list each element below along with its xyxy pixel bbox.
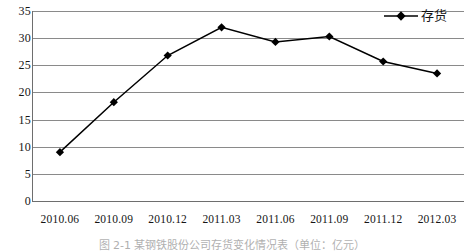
y-tick-label-0: 0 <box>3 195 31 207</box>
data-point-2011.03 <box>217 23 225 31</box>
y-tick-label-15: 15 <box>3 114 31 126</box>
x-tick-label-2010.12: 2010.12 <box>148 212 187 226</box>
legend: 存货 <box>384 8 447 24</box>
y-tick-label-5: 5 <box>3 168 31 180</box>
legend-label: 存货 <box>421 9 447 23</box>
x-tick-label-2012.03: 2012.03 <box>418 212 457 226</box>
y-tick-label-10: 10 <box>3 141 31 153</box>
data-point-2011.12 <box>379 57 387 65</box>
x-tick-label-2011.03: 2011.03 <box>202 212 240 226</box>
x-tick-label-2011.12: 2011.12 <box>364 212 402 226</box>
figure-caption: 图 2-1 某钢铁股份公司存货变化情况表（单位：亿元） <box>0 239 464 252</box>
y-tick-label-30: 30 <box>3 32 31 44</box>
chart-plot-region: 35302520151050 存货 <box>0 0 464 212</box>
x-axis: 2010.062010.092010.122011.032011.062011.… <box>33 212 464 228</box>
x-tick-label-2011.09: 2011.09 <box>310 212 348 226</box>
x-tick-label-2010.06: 2010.06 <box>41 212 80 226</box>
diamond-marker-icon <box>384 10 418 22</box>
inventory-line-chart-figure: 35302520151050 存货 2010.062010.092010.122… <box>0 0 464 252</box>
data-point-2012.03 <box>433 69 441 77</box>
series-line <box>60 27 437 152</box>
y-tick-label-25: 25 <box>3 59 31 71</box>
plot-canvas <box>33 11 464 201</box>
y-axis: 35302520151050 <box>0 0 31 212</box>
y-tick-label-35: 35 <box>3 5 31 17</box>
x-tick-label-2011.06: 2011.06 <box>256 212 294 226</box>
x-tick-label-2010.09: 2010.09 <box>94 212 133 226</box>
data-point-2011.09 <box>325 32 333 40</box>
data-point-2011.06 <box>271 38 279 46</box>
y-tick-label-20: 20 <box>3 86 31 98</box>
gridline-0 <box>33 201 464 202</box>
series-inventory <box>33 11 464 201</box>
